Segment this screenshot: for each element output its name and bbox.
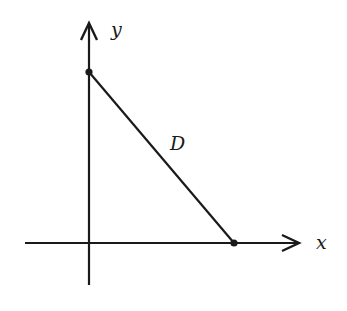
segment-d: [89, 72, 234, 243]
y-axis: [81, 23, 97, 285]
x-intercept-point: [230, 239, 237, 246]
segment-label: D: [169, 132, 185, 154]
coordinate-diagram: y x D: [0, 0, 347, 311]
y-axis-label: y: [110, 18, 122, 40]
x-axis-label: x: [316, 231, 327, 253]
x-axis: [25, 235, 299, 251]
y-intercept-point: [85, 68, 92, 75]
